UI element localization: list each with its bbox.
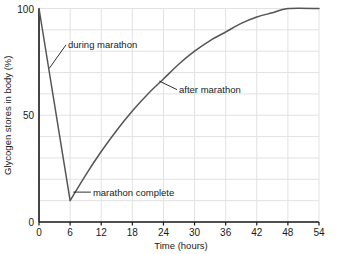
x-tick-label: 36 — [220, 227, 232, 238]
x-tick-label: 30 — [189, 227, 201, 238]
x-axis-title: Time (hours) — [154, 240, 208, 251]
x-tick-label: 54 — [313, 227, 325, 238]
x-tick-label: 6 — [67, 227, 73, 238]
chart-container: 061218243036424854 050100 Time (hours) G… — [0, 0, 340, 254]
x-tick-label: 24 — [158, 227, 170, 238]
glycogen-line-chart: 061218243036424854 050100 Time (hours) G… — [0, 0, 340, 254]
annotation-label-marathon-complete: marathon complete — [93, 187, 174, 198]
chart-background — [0, 0, 340, 254]
y-axis-title: Glycogen stores in body (%) — [2, 56, 13, 175]
y-tick-label: 50 — [23, 110, 35, 121]
annotation-label-during-marathon: during marathon — [68, 39, 137, 50]
x-tick-label: 42 — [251, 227, 263, 238]
y-tick-label: 100 — [17, 4, 34, 15]
x-tick-label: 12 — [96, 227, 108, 238]
x-tick-label: 48 — [282, 227, 294, 238]
y-tick-label: 0 — [28, 217, 34, 228]
annotation-label-after-marathon: after marathon — [179, 84, 241, 95]
x-tick-label: 18 — [127, 227, 139, 238]
x-tick-label: 0 — [36, 227, 42, 238]
